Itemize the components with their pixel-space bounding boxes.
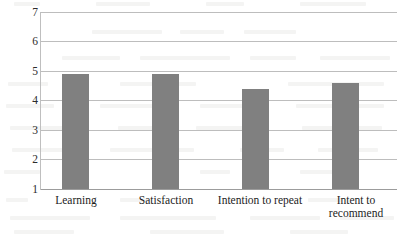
bar-learning[interactable] — [62, 74, 89, 189]
x-tick-label-satisfaction: Satisfaction — [125, 194, 207, 207]
y-tick-label-5: 5 — [20, 66, 38, 78]
bar-chart: 7 6 5 4 3 2 1 Learning Satisfaction Inte… — [0, 0, 410, 237]
plot-area: 7 6 5 4 3 2 1 Learning Satisfaction Inte… — [0, 0, 410, 237]
x-tick-label-intention-to-repeat: Intention to repeat — [205, 194, 315, 207]
x-tick-label-intent-to-recommend: Intent to recommend — [317, 194, 395, 220]
y-tick-label-2: 2 — [20, 154, 38, 166]
gridline-1-baseline — [40, 189, 397, 190]
bar-satisfaction[interactable] — [152, 74, 179, 189]
x-tick-label-learning: Learning — [35, 194, 117, 207]
gridline-7 — [40, 12, 397, 13]
y-tick-label-3: 3 — [20, 125, 38, 137]
bar-intention-to-repeat[interactable] — [242, 89, 269, 189]
gridline-5 — [40, 71, 397, 72]
y-tick-label-7: 7 — [20, 7, 38, 19]
y-axis-line — [40, 12, 41, 190]
gridline-6 — [40, 41, 397, 42]
bar-intent-to-recommend[interactable] — [332, 83, 359, 189]
y-tick-label-6: 6 — [20, 36, 38, 48]
y-tick-label-4: 4 — [20, 95, 38, 107]
